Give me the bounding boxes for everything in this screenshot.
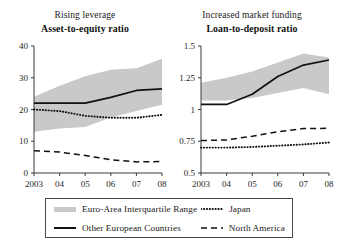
y-tick-label: 0.5 [184,168,196,178]
y-tick-label: 30 [19,73,29,83]
panel-title-left: Asset-to-equity ratio [0,23,170,35]
panel-title-group-right: Increased market funding Loan-to-deposit… [167,10,337,35]
x-tick-label: 08 [158,179,168,189]
x-tick-label: 2003 [192,179,211,189]
y-tick-label: 0 [24,168,29,178]
chart-panel-loan-to-deposit: Increased market funding Loan-to-deposit… [167,0,337,195]
x-tick-label: 05 [248,179,258,189]
x-tick-label: 05 [81,179,91,189]
legend-label-japan: Japan [229,204,250,214]
series-line-japan [201,143,329,148]
panel-title-group-left: Rising leverage Asset-to-equity ratio [0,10,170,35]
panel-supertitle-left: Rising leverage [0,10,170,22]
y-tick-label: 1 [191,105,196,115]
x-tick-label: 08 [325,179,335,189]
legend-item-north-america: North America [197,218,292,238]
legend-item-other-european-countries: Other European Countries [46,218,197,238]
series-line-north-america [201,128,329,140]
legend-label-euro-area-band: Euro-Area Interquartile Range [82,204,197,214]
x-tick-label: 04 [222,179,232,189]
plot-area-asset-to-equity: 01020304020030405060708 [0,40,170,195]
x-tick-label: 06 [106,179,116,189]
legend-swatch-band-icon [54,203,76,215]
figure-root: Rising leverage Asset-to-equity ratio 01… [0,0,337,246]
legend-item-japan: Japan [197,199,292,219]
legend-label-other-european-countries: Other European Countries [82,223,181,233]
x-tick-label: 06 [273,179,283,189]
panel-title-right: Loan-to-deposit ratio [167,23,337,35]
legend-swatch-dotted-icon [201,203,223,215]
series-line-north-america [34,151,162,162]
plot-area-loan-to-deposit: 0.50.7511.251.520030405060708 [167,40,337,195]
y-tick-label: 1.25 [179,73,195,83]
series-band-euro-area-interquartile-range [201,54,329,101]
x-tick-label: 07 [299,179,309,189]
chart-panel-asset-to-equity: Rising leverage Asset-to-equity ratio 01… [0,0,170,195]
legend-row: Other European Countries North America [46,218,292,238]
legend-swatch-dashed-icon [201,222,223,234]
x-tick-label: 04 [55,179,65,189]
legend-row: Euro-Area Interquartile Range Japan [46,199,292,219]
legend-label-north-america: North America [229,223,285,233]
x-tick-label: 2003 [25,179,44,189]
legend-swatch-solid-icon [54,222,76,234]
y-tick-label: 1.5 [184,41,196,51]
series-band-euro-area-interquartile-range [34,59,162,132]
legend-item-euro-area-band: Euro-Area Interquartile Range [46,199,197,219]
x-tick-label: 07 [132,179,142,189]
panel-supertitle-right: Increased market funding [167,10,337,22]
chart-legend: Euro-Area Interquartile Range Japan Othe… [45,198,293,238]
y-tick-label: 40 [19,41,29,51]
y-tick-label: 0.75 [179,136,195,146]
y-tick-label: 10 [19,136,29,146]
y-tick-label: 20 [19,105,29,115]
